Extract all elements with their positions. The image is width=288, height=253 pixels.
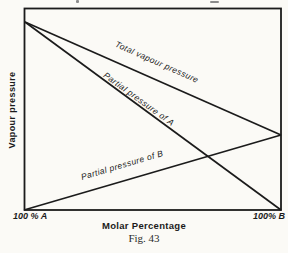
x-tick-100-percent-a: 100 % A	[13, 211, 47, 221]
figure-page: Total vapour pressure Partial pressure o…	[0, 0, 288, 253]
total-vapour-pressure-line	[25, 22, 281, 135]
y-axis-label: Vapour pressure	[7, 59, 17, 161]
x-tick-100-percent-b: 100% B	[249, 211, 285, 221]
x-axis-label: Molar Percentage	[84, 220, 204, 231]
figure-caption: Fig. 43	[94, 232, 194, 244]
partial-pressure-b-line	[24, 135, 281, 210]
